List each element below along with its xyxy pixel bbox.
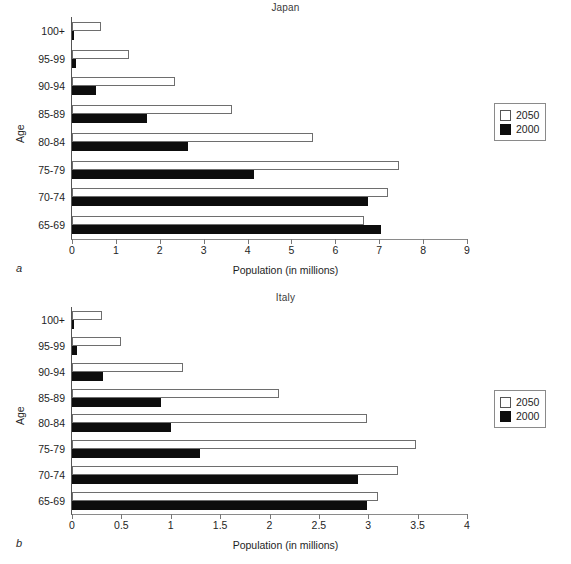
bar-2050-80-84 bbox=[72, 133, 313, 142]
x-tick-label-2.5: 2.5 bbox=[312, 520, 327, 531]
x-axis-title-italy: Population (in millions) bbox=[0, 539, 571, 551]
bar-group-65-69: 65-69 bbox=[72, 488, 467, 514]
bar-2000-65-69 bbox=[72, 225, 381, 234]
bar-2050-80-84 bbox=[72, 414, 367, 423]
x-tick-label-5: 5 bbox=[289, 245, 295, 256]
bar-2050-100+ bbox=[72, 22, 101, 31]
y-tick-label-65-69: 65-69 bbox=[38, 496, 65, 507]
bar-group-95-99: 95-99 bbox=[72, 45, 467, 73]
plot-area-japan: 65-6970-7475-7980-8485-8990-9495-99100+0… bbox=[71, 17, 467, 240]
bar-2000-80-84 bbox=[72, 142, 188, 151]
bar-2050-100+ bbox=[72, 311, 102, 320]
y-axis-title-italy: Age bbox=[14, 406, 26, 425]
x-tick-label-7: 7 bbox=[376, 245, 382, 256]
bar-2000-100+ bbox=[72, 320, 74, 329]
bar-group-70-74: 70-74 bbox=[72, 184, 467, 212]
bar-group-90-94: 90-94 bbox=[72, 73, 467, 101]
bar-2050-65-69 bbox=[72, 216, 364, 225]
bar-2000-75-79 bbox=[72, 170, 254, 179]
bar-2050-65-69 bbox=[72, 492, 378, 501]
x-tick-label-6: 6 bbox=[332, 245, 338, 256]
x-tick-label-0.5: 0.5 bbox=[114, 520, 129, 531]
y-tick-label-80-84: 80-84 bbox=[38, 418, 65, 429]
bar-2050-90-94 bbox=[72, 77, 175, 86]
bar-group-70-74: 70-74 bbox=[72, 462, 467, 488]
y-tick-label-85-89: 85-89 bbox=[38, 393, 65, 404]
bar-2050-75-79 bbox=[72, 440, 416, 449]
y-tick-label-85-89: 85-89 bbox=[38, 109, 65, 120]
bar-2000-80-84 bbox=[72, 423, 171, 432]
legend-swatch-2000-icon bbox=[500, 411, 511, 422]
bar-group-95-99: 95-99 bbox=[72, 333, 467, 359]
bar-group-80-84: 80-84 bbox=[72, 128, 467, 156]
bar-group-65-69: 65-69 bbox=[72, 211, 467, 239]
legend-item-2050: 2050 bbox=[500, 395, 539, 409]
bar-2000-95-99 bbox=[72, 59, 76, 68]
bar-2000-85-89 bbox=[72, 114, 147, 123]
bar-2000-70-74 bbox=[72, 475, 358, 484]
bar-2000-100+ bbox=[72, 31, 74, 40]
x-tick-label-2: 2 bbox=[157, 245, 163, 256]
bar-2000-90-94 bbox=[72, 86, 96, 95]
y-tick-label-100+: 100+ bbox=[41, 315, 65, 326]
legend-label-2000: 2000 bbox=[516, 124, 539, 135]
y-tick-label-70-74: 70-74 bbox=[38, 192, 65, 203]
legend-label-2050: 2050 bbox=[516, 110, 539, 121]
bar-group-75-79: 75-79 bbox=[72, 436, 467, 462]
x-tick-label-1.5: 1.5 bbox=[213, 520, 228, 531]
x-tick-label-8: 8 bbox=[420, 245, 426, 256]
bar-2000-85-89 bbox=[72, 398, 161, 407]
x-tick-label-4: 4 bbox=[464, 520, 470, 531]
y-tick-label-75-79: 75-79 bbox=[38, 444, 65, 455]
bar-2050-70-74 bbox=[72, 466, 398, 475]
bar-2000-95-99 bbox=[72, 346, 77, 355]
legend-label-2000: 2000 bbox=[516, 411, 539, 422]
x-tick-label-1: 1 bbox=[168, 520, 174, 531]
y-tick-label-75-79: 75-79 bbox=[38, 165, 65, 176]
legend-swatch-2050-icon bbox=[500, 397, 511, 408]
bar-2050-85-89 bbox=[72, 105, 232, 114]
bar-group-75-79: 75-79 bbox=[72, 156, 467, 184]
x-axis-title-japan: Population (in millions) bbox=[0, 264, 571, 276]
bar-2050-95-99 bbox=[72, 337, 121, 346]
bar-group-100+: 100+ bbox=[72, 17, 467, 45]
y-tick-label-80-84: 80-84 bbox=[38, 137, 65, 148]
y-tick-label-95-99: 95-99 bbox=[38, 54, 65, 65]
x-tick-label-4: 4 bbox=[245, 245, 251, 256]
chart-panel-italy: Italy 65-6970-7475-7980-8485-8990-9495-9… bbox=[0, 290, 571, 564]
y-axis-title-japan: Age bbox=[14, 124, 26, 143]
panel-letter-a: a bbox=[16, 262, 22, 274]
bar-2000-90-94 bbox=[72, 372, 103, 381]
legend-item-2050: 2050 bbox=[500, 108, 539, 122]
x-tick-label-3: 3 bbox=[365, 520, 371, 531]
bar-2050-85-89 bbox=[72, 389, 279, 398]
bar-2050-90-94 bbox=[72, 363, 183, 372]
bar-group-80-84: 80-84 bbox=[72, 411, 467, 437]
legend-swatch-2050-icon bbox=[500, 110, 511, 121]
plot-area-italy: 65-6970-7475-7980-8485-8990-9495-99100+0… bbox=[71, 307, 467, 515]
bar-group-100+: 100+ bbox=[72, 307, 467, 333]
bar-2000-75-79 bbox=[72, 449, 200, 458]
legend-italy: 2050 2000 bbox=[494, 390, 546, 428]
y-tick-label-70-74: 70-74 bbox=[38, 470, 65, 481]
legend-item-2000: 2000 bbox=[500, 409, 539, 423]
x-tick-label-2: 2 bbox=[267, 520, 273, 531]
bar-2050-70-74 bbox=[72, 188, 388, 197]
y-tick-label-100+: 100+ bbox=[41, 26, 65, 37]
x-tick-label-3.5: 3.5 bbox=[410, 520, 425, 531]
y-tick-label-95-99: 95-99 bbox=[38, 341, 65, 352]
bar-group-85-89: 85-89 bbox=[72, 100, 467, 128]
bar-group-90-94: 90-94 bbox=[72, 359, 467, 385]
x-tick-label-1: 1 bbox=[113, 245, 119, 256]
bar-2000-65-69 bbox=[72, 501, 367, 510]
legend-swatch-2000-icon bbox=[500, 124, 511, 135]
bar-group-85-89: 85-89 bbox=[72, 385, 467, 411]
x-tick-label-0: 0 bbox=[69, 520, 75, 531]
legend-japan: 2050 2000 bbox=[494, 103, 546, 141]
y-tick-label-90-94: 90-94 bbox=[38, 367, 65, 378]
x-tick-label-0: 0 bbox=[69, 245, 75, 256]
y-tick-label-90-94: 90-94 bbox=[38, 81, 65, 92]
legend-item-2000: 2000 bbox=[500, 122, 539, 136]
bar-2000-70-74 bbox=[72, 197, 368, 206]
panel-letter-b: b bbox=[16, 537, 22, 549]
